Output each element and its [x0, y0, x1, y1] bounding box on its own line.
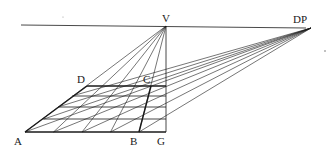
label-V: V — [162, 13, 170, 24]
label-C: C — [143, 74, 150, 85]
label-B: B — [130, 136, 137, 147]
label-DP: DP — [293, 14, 307, 25]
stray-dot — [62, 16, 63, 17]
stray-dot — [324, 50, 325, 51]
edge-BC — [139, 86, 151, 132]
label-A: A — [14, 136, 22, 147]
diagonals-to-DP — [25, 28, 311, 132]
label-G: G — [157, 136, 165, 147]
label-D: D — [77, 74, 85, 85]
